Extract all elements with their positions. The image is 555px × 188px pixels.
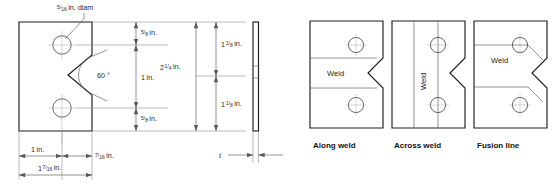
across-weld-outline	[392, 21, 465, 128]
fusion-line-lower	[474, 87, 543, 102]
fusion-line-outline	[474, 21, 547, 128]
figure-root: 5/16in. diam 60 ° 5/8in. 1in. 5/8	[0, 0, 555, 188]
vdim-bottom-label: 5/8in.	[141, 114, 157, 123]
vdim-mid-label: 1in.	[141, 73, 154, 82]
along-weld-label: Weld	[327, 69, 344, 78]
panel-fusion-line: Weld Fusion line	[474, 21, 547, 150]
fusion-line-upper	[474, 45, 543, 60]
hdim-7-16in-label: 7/16in.	[95, 151, 114, 160]
angle-label: 60 °	[97, 71, 110, 80]
vdim-top-label: 5/8in.	[141, 28, 157, 37]
panel-along-weld: Weld Along weld	[310, 21, 383, 150]
angle-leader-top	[88, 50, 107, 58]
vdim-right-top-label: 11/8in.	[221, 39, 242, 49]
fusion-line-weld-label: Weld	[491, 56, 508, 65]
hdim-1-7-16in-label: 17/16in.	[38, 163, 61, 173]
engineering-drawing-canvas: 5/16in. diam 60 ° 5/8in. 1in. 5/8	[0, 0, 555, 188]
thickness-label: t	[219, 151, 222, 160]
across-weld-label: Weld	[419, 73, 428, 90]
panel-across-weld: Weld Across weld	[392, 21, 465, 150]
angle-arc	[79, 58, 88, 92]
hole-diam-leader	[65, 13, 84, 39]
hdim-1in-label: 1in.	[31, 145, 44, 154]
vdim-overall-label: 21/4in.	[160, 62, 181, 72]
fusion-line-caption: Fusion line	[477, 141, 520, 150]
left-drawing-group: 5/16in. diam 60 ° 5/8in. 1in. 5/8	[19, 3, 283, 180]
edge-view-plate	[253, 22, 259, 131]
across-weld-caption: Across weld	[394, 141, 441, 150]
vdim-right-bottom-label: 11/8in.	[221, 99, 242, 109]
along-weld-caption: Along weld	[313, 141, 356, 150]
along-weld-outline	[310, 21, 383, 128]
angle-leader-bottom	[88, 92, 107, 101]
hole-diam-label: 5/16in. diam	[57, 3, 93, 12]
